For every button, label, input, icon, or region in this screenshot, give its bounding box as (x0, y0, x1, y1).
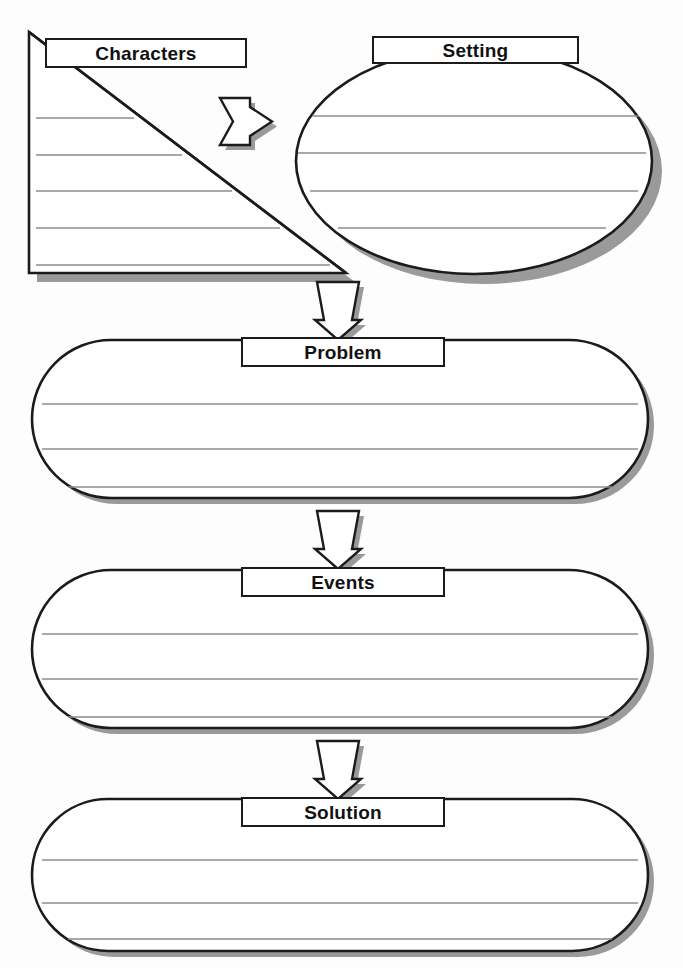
problem-label-box[interactable]: Problem (241, 337, 445, 367)
setting-shape (296, 48, 652, 274)
events-label-box[interactable]: Events (241, 567, 445, 597)
story-map-page: Characters Setting Problem Events Soluti… (0, 0, 683, 968)
characters-label-box[interactable]: Characters (45, 38, 247, 68)
events-label-text: Events (311, 573, 375, 592)
setting-label-text: Setting (443, 41, 509, 60)
arrow-right-characters-to-setting (220, 98, 272, 145)
setting-label-box[interactable]: Setting (372, 36, 579, 64)
problem-label-text: Problem (304, 343, 381, 362)
solution-label-text: Solution (304, 803, 382, 822)
characters-label-text: Characters (95, 44, 196, 63)
arrow-down-problem-to-events (315, 511, 361, 569)
arrow-down-to-problem (315, 282, 361, 340)
arrow-down-events-to-solution (315, 741, 361, 799)
solution-label-box[interactable]: Solution (241, 797, 445, 827)
